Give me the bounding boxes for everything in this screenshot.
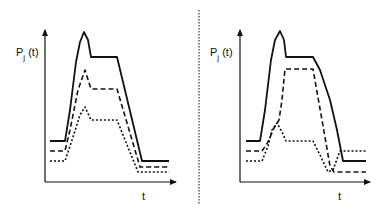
x-axis-label: t: [338, 190, 341, 202]
x-axis-label: t: [142, 190, 145, 202]
figure-canvas: Pj (t) t Pj (t) t: [0, 0, 388, 215]
right-panel: Pj (t) t: [210, 30, 370, 202]
y-axis-label: Pj (t): [210, 46, 233, 62]
left-panel: Pj (t) t: [16, 30, 176, 202]
y-axis-label: Pj (t): [16, 46, 39, 62]
